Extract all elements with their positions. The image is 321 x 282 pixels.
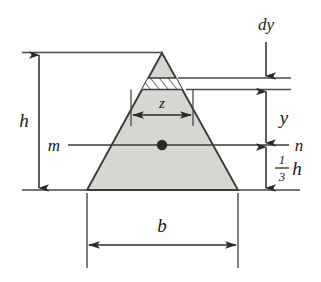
axis-label-n: n — [295, 136, 304, 155]
third-h-numerator: 1 — [279, 152, 286, 167]
z-dimension-label: z — [158, 95, 165, 111]
y-dimension-label: y — [278, 107, 289, 128]
b-dimension-label: b — [157, 215, 167, 236]
centroid-dot — [157, 140, 167, 150]
figure-container: h m n z dy y 1 — [0, 0, 321, 282]
dy-dimension-label: dy — [258, 15, 275, 34]
third-h-symbol: h — [292, 158, 302, 179]
axis-label-m: m — [48, 136, 60, 155]
triangle-cross-section-diagram: h m n z dy y 1 — [0, 0, 321, 282]
third-h-denominator: 3 — [278, 169, 286, 184]
h-dimension-label: h — [19, 110, 29, 131]
